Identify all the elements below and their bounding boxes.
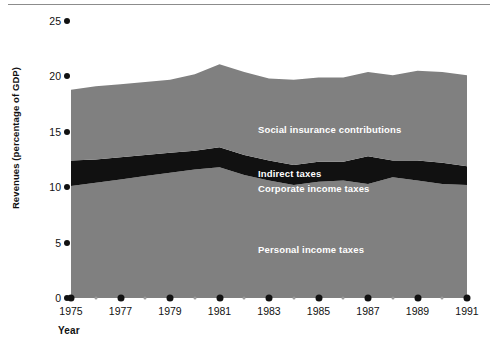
- x-tick-dot-1981: [216, 295, 223, 302]
- x-tick-dot-1989: [414, 295, 421, 302]
- x-tick-dot-1987: [365, 295, 372, 302]
- x-tick-dot-1984: [292, 297, 295, 300]
- x-tick-dot-1988: [391, 297, 394, 300]
- figure-area-chart: Revenues (percentage of GDP) 25 20 15 10…: [0, 0, 495, 346]
- x-tick-dot-1977: [117, 295, 124, 302]
- x-tick-dot-1991: [464, 295, 471, 302]
- x-tick-label-1987: 1987: [356, 306, 379, 317]
- x-tick-dot-1979: [167, 295, 174, 302]
- x-axis: 197519771979198119831985198719891991: [0, 0, 495, 346]
- x-tick-dot-1985: [315, 295, 322, 302]
- x-tick-label-1975: 1975: [59, 306, 82, 317]
- x-tick-dot-1975: [68, 295, 75, 302]
- x-tick-label-1983: 1983: [257, 306, 280, 317]
- x-tick-dot-1990: [441, 297, 444, 300]
- x-tick-dot-1976: [94, 297, 97, 300]
- x-tick-dot-1986: [342, 297, 345, 300]
- x-axis-title: Year: [58, 325, 80, 336]
- x-tick-dot-1978: [144, 297, 147, 300]
- x-tick-dot-1980: [193, 297, 196, 300]
- x-tick-dot-1982: [243, 297, 246, 300]
- x-tick-label-1977: 1977: [109, 306, 132, 317]
- x-tick-label-1979: 1979: [158, 306, 181, 317]
- x-tick-label-1989: 1989: [406, 306, 429, 317]
- x-tick-label-1991: 1991: [455, 306, 478, 317]
- x-tick-label-1981: 1981: [208, 306, 231, 317]
- x-tick-dot-1983: [266, 295, 273, 302]
- x-tick-label-1985: 1985: [307, 306, 330, 317]
